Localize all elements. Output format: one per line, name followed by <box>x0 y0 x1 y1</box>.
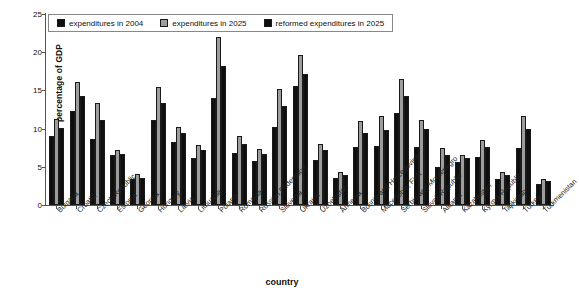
x-axis-tick-mark <box>300 205 301 209</box>
x-axis-tick-mark <box>76 205 77 209</box>
bar-group <box>70 82 85 205</box>
x-axis-tick-mark <box>523 205 524 209</box>
legend-label: expenditures in 2004 <box>69 19 143 28</box>
bar <box>363 133 368 205</box>
x-axis-tick-mark <box>97 205 98 209</box>
x-axis-tick-mark <box>279 205 280 209</box>
x-axis-tick-mark <box>117 205 118 209</box>
x-axis-tick-mark <box>543 205 544 209</box>
bar <box>161 103 166 205</box>
bar <box>303 74 308 205</box>
x-axis-tick-mark <box>198 205 199 209</box>
x-axis-title: country <box>0 277 564 287</box>
bar <box>59 128 64 205</box>
x-axis-tick-mark <box>421 205 422 209</box>
bar <box>221 66 226 205</box>
bar <box>100 120 105 205</box>
x-axis-tick-mark <box>340 205 341 209</box>
bar <box>80 96 85 205</box>
x-axis-tick-labels: BulgariaCroatiaCzech RepublicEstoniaGeor… <box>0 208 564 278</box>
chart-legend: expenditures in 2004expenditures in 2025… <box>48 14 393 32</box>
y-axis-tick-mark <box>42 129 46 130</box>
x-axis-tick-mark <box>239 205 240 209</box>
x-axis-tick-mark <box>158 205 159 209</box>
bar-group <box>211 37 226 205</box>
x-axis-tick-mark <box>441 205 442 209</box>
bar-group <box>191 145 206 205</box>
legend-label: expenditures in 2025 <box>172 19 246 28</box>
y-axis-tick-mark <box>42 167 46 168</box>
bar <box>485 147 490 205</box>
y-axis-tick-mark <box>42 205 46 206</box>
legend-item: reformed expenditures in 2025 <box>264 19 385 28</box>
bar-group <box>90 103 105 205</box>
x-axis-tick-mark <box>320 205 321 209</box>
x-axis-tick-mark <box>360 205 361 209</box>
x-axis-tick-mark <box>137 205 138 209</box>
bar-group <box>49 119 64 205</box>
x-axis-tick-mark <box>381 205 382 209</box>
bar <box>242 144 247 205</box>
legend-item: expenditures in 2025 <box>160 19 246 28</box>
x-axis-tick-mark <box>502 205 503 209</box>
legend-label: reformed expenditures in 2025 <box>276 19 385 28</box>
bar <box>323 150 328 205</box>
y-axis-tick-mark <box>42 52 46 53</box>
bar-group <box>151 87 166 205</box>
x-axis-tick-mark <box>56 205 57 209</box>
x-axis-tick-mark <box>401 205 402 209</box>
legend-swatch-icon <box>57 19 65 27</box>
x-axis-tick-mark <box>178 205 179 209</box>
x-axis-tick-mark <box>462 205 463 209</box>
x-axis-tick-mark <box>482 205 483 209</box>
legend-swatch-icon <box>160 19 168 27</box>
legend-swatch-icon <box>264 19 272 27</box>
x-axis-tick-mark <box>259 205 260 209</box>
x-axis-tick-mark <box>218 205 219 209</box>
y-axis-tick-mark <box>42 90 46 91</box>
legend-item: expenditures in 2004 <box>57 19 143 28</box>
y-axis-tick-mark <box>42 14 46 15</box>
